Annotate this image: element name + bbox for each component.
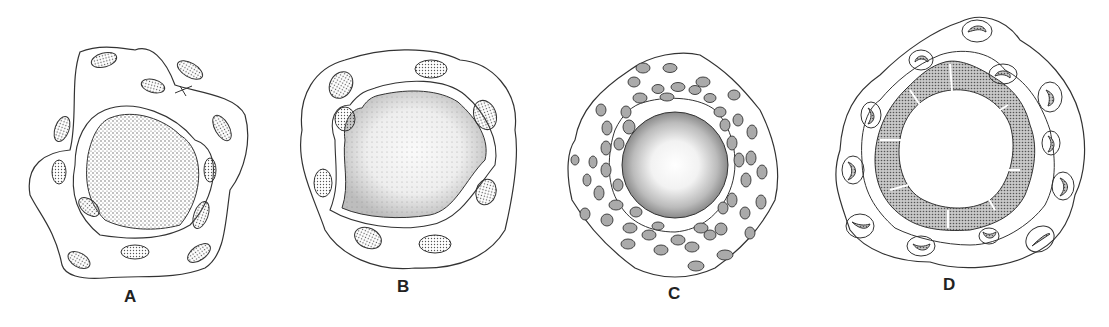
panel-label-a: A [124,287,136,307]
cross-section-c-drawing [550,0,830,327]
figure: A [0,0,1109,327]
panel-c: C [550,0,830,327]
panel-label-d: D [943,275,955,295]
cross-section-d-drawing [820,0,1109,327]
panel-d: D [820,0,1109,327]
panel-b: B [280,0,550,327]
panel-label-c: C [668,284,680,304]
panel-a: A [0,0,280,327]
panel-label-b: B [397,277,409,297]
cross-section-b-drawing [280,0,550,327]
cross-section-a-drawing [0,0,280,327]
